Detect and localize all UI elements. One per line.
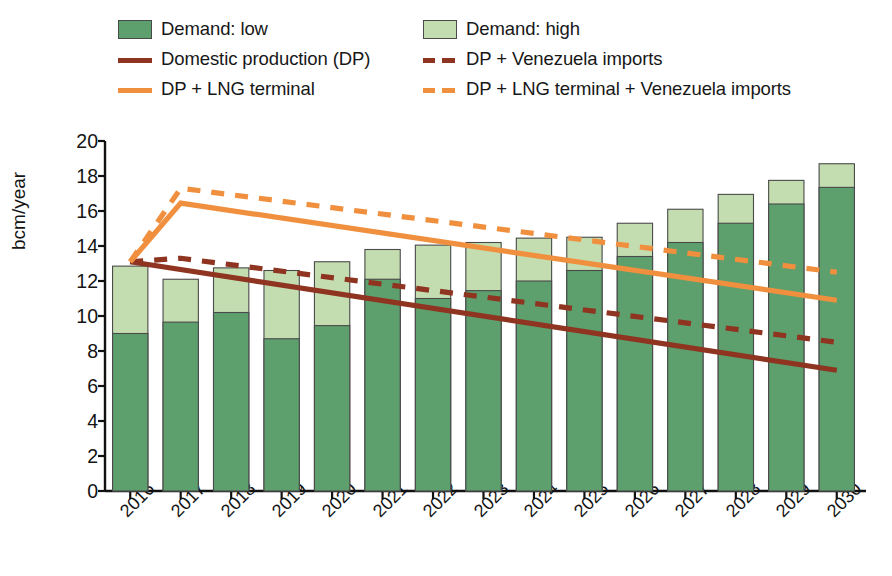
plot-area: bcm/year 02468101214161820 2016201720182… xyxy=(0,0,892,576)
bar-segment-demand-low xyxy=(113,334,148,492)
bar-segment-demand-low xyxy=(466,291,501,491)
bar-segment-demand-low xyxy=(314,326,349,491)
chart-figure: Demand: low Demand: high Domestic produc… xyxy=(0,0,892,576)
bar-segment-demand-low xyxy=(214,313,249,492)
bar-segment-demand-low xyxy=(415,299,450,492)
bar-segment-demand-low xyxy=(365,279,400,491)
bar-segment-demand-low xyxy=(163,322,198,491)
bar-segment-demand-low xyxy=(769,204,804,491)
plot-svg xyxy=(0,0,892,576)
bar-segment-demand-low xyxy=(516,281,551,491)
bar-segment-demand-low xyxy=(264,339,299,491)
bar-segment-demand-low xyxy=(617,257,652,492)
bar-segment-demand-low xyxy=(567,271,602,492)
